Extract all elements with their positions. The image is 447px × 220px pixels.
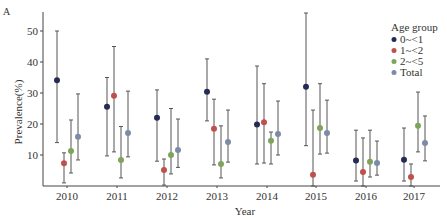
data-point [68, 148, 74, 154]
x-tick-label: 2015 [305, 190, 328, 202]
x-tick-label: 2013 [206, 190, 229, 202]
data-point [225, 139, 231, 145]
x-tick-label: 2014 [256, 190, 279, 202]
data-point [353, 158, 359, 164]
data-point [125, 130, 131, 136]
x-axis-title: Year [235, 205, 256, 217]
x-tick-label: 2012 [156, 190, 178, 202]
data-point [204, 89, 210, 95]
x-tick-label: 2010 [56, 190, 79, 202]
data-point [175, 147, 181, 153]
data-point [61, 160, 67, 166]
series-0 [54, 13, 407, 181]
data-point [422, 140, 428, 146]
data-point [211, 126, 217, 132]
y-tick-label: 10 [27, 149, 39, 161]
data-point [54, 77, 60, 83]
data-point [324, 130, 330, 136]
legend-marker [392, 70, 397, 75]
data-point [104, 104, 110, 110]
data-point [111, 93, 117, 99]
data-point [75, 134, 81, 140]
data-point [408, 174, 414, 180]
data-point [367, 159, 373, 165]
y-tick-label: 40 [27, 56, 39, 68]
series-2 [68, 84, 421, 178]
x-axis: 20102011201220132014201520162017 [43, 186, 440, 202]
y-tick-label: 50 [27, 25, 39, 37]
legend-marker [392, 37, 397, 42]
data-point [161, 167, 167, 173]
legend-marker [392, 59, 397, 64]
data-point [118, 157, 124, 163]
y-tick-label: 30 [27, 87, 39, 99]
data-point [310, 172, 316, 178]
data-point [374, 160, 380, 166]
y-axis: 1020304050 [27, 12, 43, 186]
y-axis-title: Prevalence(%) [12, 79, 25, 144]
data-point [317, 125, 323, 131]
data-point [218, 161, 224, 167]
legend-marker [392, 48, 397, 53]
y-tick-label: 20 [27, 118, 39, 130]
legend-item: Total [400, 66, 422, 78]
data-point [254, 122, 260, 128]
data-point [360, 169, 366, 175]
data-point [168, 152, 174, 158]
data-point [275, 131, 281, 137]
data-point [303, 84, 309, 90]
prevalence-chart: A 1020304050 201020112012201320142015201… [0, 0, 447, 220]
data-point [401, 157, 407, 163]
x-tick-label: 2016 [355, 190, 378, 202]
legend-title: Age group [391, 21, 438, 33]
panel-label: A [3, 6, 11, 17]
data-point [415, 123, 421, 129]
x-tick-label: 2017 [403, 190, 426, 202]
data-point [261, 119, 267, 125]
data-point [154, 115, 160, 121]
x-tick-label: 2011 [106, 190, 128, 202]
series-1 [61, 47, 414, 187]
data-point [268, 138, 274, 144]
plot-area [54, 13, 428, 186]
series-3 [75, 91, 428, 175]
legend: Age group 0~<11~<22~<5Total [391, 21, 438, 78]
